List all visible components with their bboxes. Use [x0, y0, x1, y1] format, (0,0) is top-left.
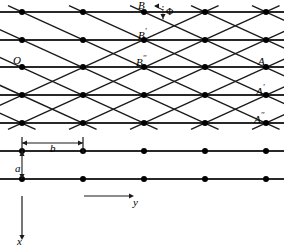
double-prime-mark: '': [143, 54, 146, 63]
prime-mark: ': [145, 27, 147, 36]
label-origin-O: O: [13, 55, 21, 66]
lattice-point: [19, 92, 25, 98]
lattice-point: [80, 9, 86, 15]
lattice-point: [202, 92, 208, 98]
lattice-point: [80, 176, 86, 182]
lattice-point: [80, 92, 86, 98]
lattice-point: [263, 176, 269, 182]
lattice-point: [263, 37, 269, 43]
lattice-point: [80, 64, 86, 70]
lattice-point: [263, 148, 269, 154]
lattice-point: [141, 120, 147, 126]
b-arrow-right: [78, 140, 83, 145]
lattice-point: [202, 64, 208, 70]
label-spacing-a: a: [15, 163, 21, 174]
lattice-point: [202, 120, 208, 126]
lattice-point: [19, 120, 25, 126]
label-A: A: [258, 56, 265, 67]
lattice-point: [202, 9, 208, 15]
label-axis-y: y: [133, 197, 138, 208]
label-B-double-prime: B'': [136, 55, 146, 68]
lattice-point: [141, 176, 147, 182]
lattice-point: [80, 37, 86, 43]
prime-mark: ': [263, 83, 265, 92]
lattice-point: [141, 148, 147, 154]
phi-arrow-upper: [154, 3, 159, 8]
label-B-prime: B': [138, 28, 146, 41]
b-arrow-left: [22, 140, 27, 145]
phi-arrow-lower: [160, 14, 165, 19]
lattice-point: [202, 148, 208, 154]
lattice-point: [19, 37, 25, 43]
label-B: B: [138, 0, 145, 11]
lattice-figure: O B B' B'' A A' A'' Φ b a y x: [0, 0, 284, 251]
label-axis-x: x: [17, 236, 22, 247]
lattice-point: [141, 92, 147, 98]
lattice-point: [202, 37, 208, 43]
lattice-point: [80, 120, 86, 126]
label-phi-angle: Φ: [166, 7, 173, 17]
double-prime-mark: '': [261, 111, 264, 120]
lattice-point: [202, 176, 208, 182]
lattice-point: [19, 9, 25, 15]
label-spacing-b: b: [50, 143, 56, 154]
label-A-prime: A': [256, 84, 264, 97]
label-A-double-prime: A'': [254, 112, 264, 125]
lattice-point: [263, 9, 269, 15]
